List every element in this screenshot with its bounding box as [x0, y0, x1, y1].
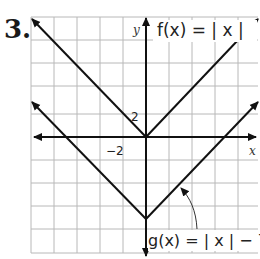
f-label: f(x) = | x | — [157, 20, 244, 40]
y-tick-label: 2 — [131, 110, 139, 124]
g-label: g(x) = | x | − 7 — [148, 231, 260, 250]
g-pointer-arrow — [181, 188, 197, 229]
x-axis-label: x — [249, 144, 256, 158]
coordinate-graph: y f(x) = | x | 2 −2 x g(x) = | x | − 7 — [0, 0, 260, 259]
y-axis-label: y — [132, 23, 140, 37]
x-tick-label: −2 — [106, 144, 124, 158]
